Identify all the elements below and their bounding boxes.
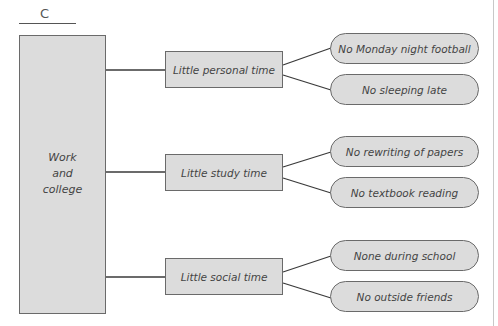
diagram-label: C bbox=[40, 6, 49, 21]
root-box: Work and college bbox=[19, 35, 106, 314]
leaf-pill: No textbook reading bbox=[330, 177, 479, 208]
leaf-pill: No outside friends bbox=[330, 281, 479, 312]
root-text: Work and college bbox=[43, 150, 82, 313]
leaf-pill: No rewriting of papers bbox=[330, 136, 479, 167]
label-underline bbox=[19, 23, 76, 24]
branch-box-social-time: Little social time bbox=[165, 258, 283, 295]
branch-box-personal-time: Little personal time bbox=[165, 51, 283, 88]
leaf-pill: None during school bbox=[330, 240, 479, 271]
branch-box-study-time: Little study time bbox=[165, 154, 283, 191]
leaf-pill: No Monday night football bbox=[330, 33, 479, 64]
leaf-pill: No sleeping late bbox=[330, 74, 479, 105]
page-edge-rule bbox=[493, 0, 494, 326]
